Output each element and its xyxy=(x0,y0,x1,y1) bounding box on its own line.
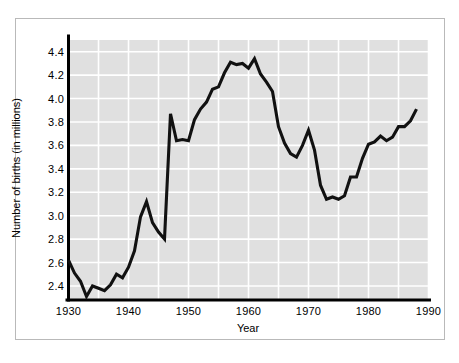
y-tick-label: 2.6 xyxy=(38,257,64,269)
x-tick-label: 1990 xyxy=(416,305,441,317)
y-tick-label: 2.4 xyxy=(38,280,64,292)
x-tick-label: 1980 xyxy=(356,305,381,317)
y-tick-label: 3.4 xyxy=(38,163,64,175)
x-tick-label: 1940 xyxy=(116,305,141,317)
y-tick-label: 3.0 xyxy=(38,210,64,222)
y-tick-label: 3.2 xyxy=(38,186,64,198)
y-tick-label: 3.6 xyxy=(38,139,64,151)
y-tick-label: 2.8 xyxy=(38,233,64,245)
x-axis-title: Year xyxy=(237,322,259,334)
y-axis-title: Number of births (in millions) xyxy=(10,98,22,238)
x-tick-label: 1960 xyxy=(236,305,261,317)
x-tick-label: 1970 xyxy=(296,305,321,317)
y-tick-label: 3.8 xyxy=(38,116,64,128)
x-tick-label: 1930 xyxy=(56,305,81,317)
birth-rate-line-chart: 2.42.62.83.03.23.43.63.84.04.24.4 193019… xyxy=(0,0,459,363)
y-tick-label: 4.0 xyxy=(38,93,64,105)
y-tick-label: 4.4 xyxy=(38,46,64,58)
y-tick-label: 4.2 xyxy=(38,69,64,81)
x-tick-label: 1950 xyxy=(176,305,201,317)
